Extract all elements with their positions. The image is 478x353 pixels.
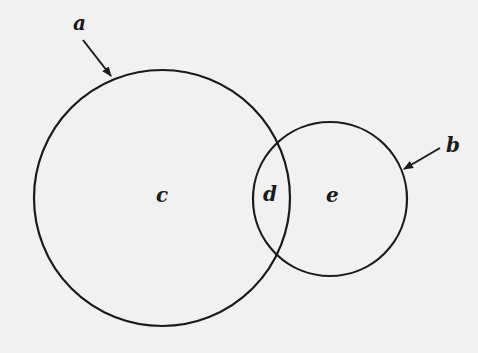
label-d: d <box>263 184 277 204</box>
diagram-canvas <box>0 0 478 353</box>
arrow-b <box>404 148 440 169</box>
label-b: b <box>446 135 460 155</box>
label-a: a <box>73 13 86 33</box>
label-e: e <box>326 185 339 205</box>
arrow-a <box>83 40 111 76</box>
label-c: c <box>156 185 168 205</box>
venn-diagram: a b c d e <box>0 0 478 353</box>
